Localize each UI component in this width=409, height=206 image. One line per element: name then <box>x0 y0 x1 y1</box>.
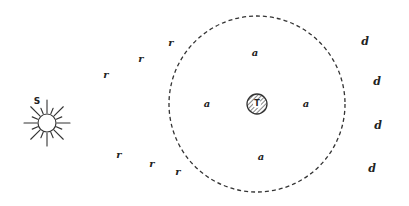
label-r: r <box>138 54 143 64</box>
label-r: r <box>149 159 154 169</box>
label-d: d <box>374 120 382 131</box>
label-d: d <box>368 163 376 174</box>
label-r: r <box>175 167 180 177</box>
earth-label: T <box>254 100 259 108</box>
label-d: d <box>361 36 369 47</box>
sun-earth-diagram: S T a a a a r r r r r r d d d d <box>0 0 409 206</box>
label-a: a <box>204 99 210 109</box>
label-r: r <box>116 150 121 160</box>
label-a: a <box>258 152 264 162</box>
label-a: a <box>252 48 258 58</box>
label-r: r <box>168 38 173 48</box>
label-r: r <box>103 70 108 80</box>
sun-label: S <box>34 97 40 106</box>
label-a: a <box>303 99 309 109</box>
sun-icon <box>24 100 70 146</box>
label-d: d <box>373 76 381 87</box>
